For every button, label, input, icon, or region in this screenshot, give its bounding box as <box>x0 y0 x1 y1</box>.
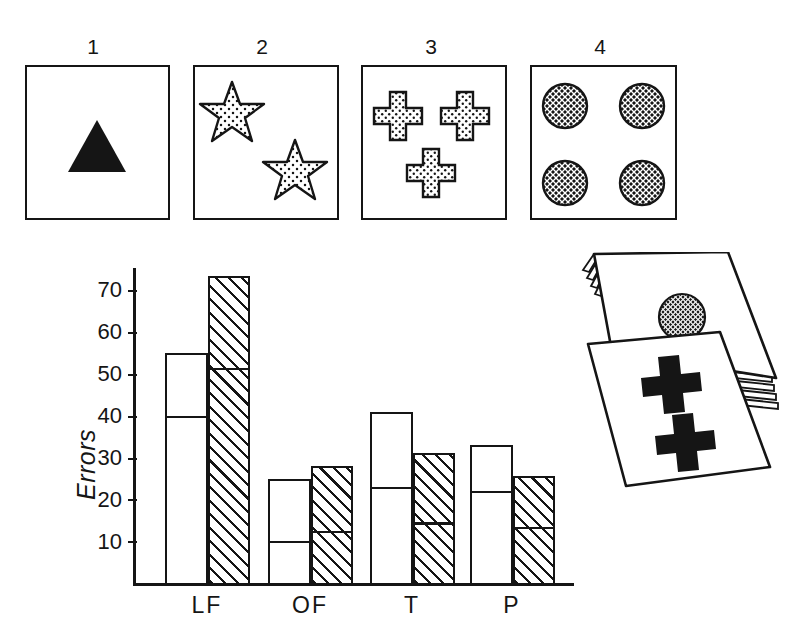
bar-OF-open-divider <box>270 541 309 543</box>
tick-mark-20 <box>128 499 137 501</box>
tick-mark-70 <box>128 290 137 292</box>
bar-T-open <box>370 412 413 585</box>
y-axis-line <box>133 268 136 585</box>
tick-mark-10 <box>128 541 137 543</box>
card-deck-illustration <box>548 252 798 521</box>
tick-label-50: 50 <box>78 361 122 387</box>
tick-label-70: 70 <box>78 277 122 303</box>
bar-LF-hatched-divider <box>210 368 248 370</box>
bar-T-hatched-divider <box>415 522 453 524</box>
tick-label-20: 20 <box>78 487 122 513</box>
tick-label-60: 60 <box>78 319 122 345</box>
bar-P-hatched-divider <box>515 527 553 529</box>
tick-label-40: 40 <box>78 403 122 429</box>
bar-P-open-divider <box>472 491 511 493</box>
bar-OF-hatched-divider <box>313 531 351 533</box>
bar-T-hatched <box>413 453 455 584</box>
bar-OF-hatched <box>311 466 353 585</box>
tick-mark-60 <box>128 332 137 334</box>
tick-mark-40 <box>128 416 137 418</box>
bar-P-open <box>470 445 513 585</box>
figure-root: 1 2 3 <box>0 0 798 639</box>
bar-LF-open-divider <box>167 416 206 418</box>
group-label-LF: LF <box>167 592 247 619</box>
bar-LF-hatched <box>208 276 250 585</box>
group-label-P: P <box>472 592 552 619</box>
bar-T-open-divider <box>372 487 411 489</box>
tick-label-10: 10 <box>78 529 122 555</box>
bar-OF-open <box>268 479 311 585</box>
group-label-T: T <box>372 592 452 619</box>
group-label-OF: OF <box>270 592 350 619</box>
tick-mark-50 <box>128 374 137 376</box>
tick-mark-30 <box>128 458 137 460</box>
bar-chart: Errors 10 20 30 40 50 60 70 LF <box>0 0 620 639</box>
tick-label-30: 30 <box>78 445 122 471</box>
bar-LF-open <box>165 353 208 585</box>
